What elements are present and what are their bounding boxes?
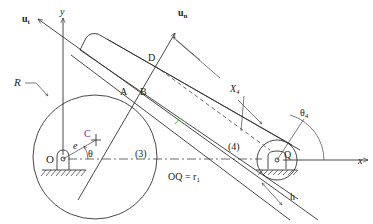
label-theta4: θ4 — [300, 107, 309, 120]
label-e: e — [73, 140, 78, 151]
label-R: R — [13, 76, 21, 88]
follower-centerline — [155, 66, 270, 150]
label-y: y — [59, 6, 65, 17]
label-OQ: OQ = r1 — [168, 171, 200, 184]
label-D: D — [148, 52, 155, 63]
label-C: C — [84, 128, 91, 139]
follower-upper-edge — [107, 39, 300, 150]
label-O: O — [46, 153, 54, 165]
x4-dim-arrow-top — [173, 37, 200, 60]
cam-follower-diagram: ut y un R A B D C e θ O (3) (4) OQ = r1 … — [0, 0, 373, 224]
label-link4: (4) — [228, 141, 240, 153]
label-link3: (3) — [135, 148, 147, 160]
label-x: x — [357, 155, 363, 166]
o-hatch — [41, 170, 86, 176]
label-A: A — [120, 86, 128, 97]
label-theta: θ — [88, 148, 93, 159]
label-h: h — [290, 191, 295, 202]
label-X4: X4 — [229, 83, 240, 96]
label-un: un — [178, 7, 188, 20]
q-hatch — [258, 170, 298, 175]
follower-lower-edge — [71, 55, 290, 220]
theta4-arc — [290, 115, 324, 160]
label-B: B — [140, 86, 147, 97]
label-ut: ut — [22, 13, 31, 26]
x4-dim-line-2 — [241, 96, 244, 131]
r-leader — [25, 83, 48, 96]
label-Q: Q — [284, 149, 292, 160]
follower-outline — [80, 34, 292, 146]
x4-dim-line — [176, 40, 220, 78]
